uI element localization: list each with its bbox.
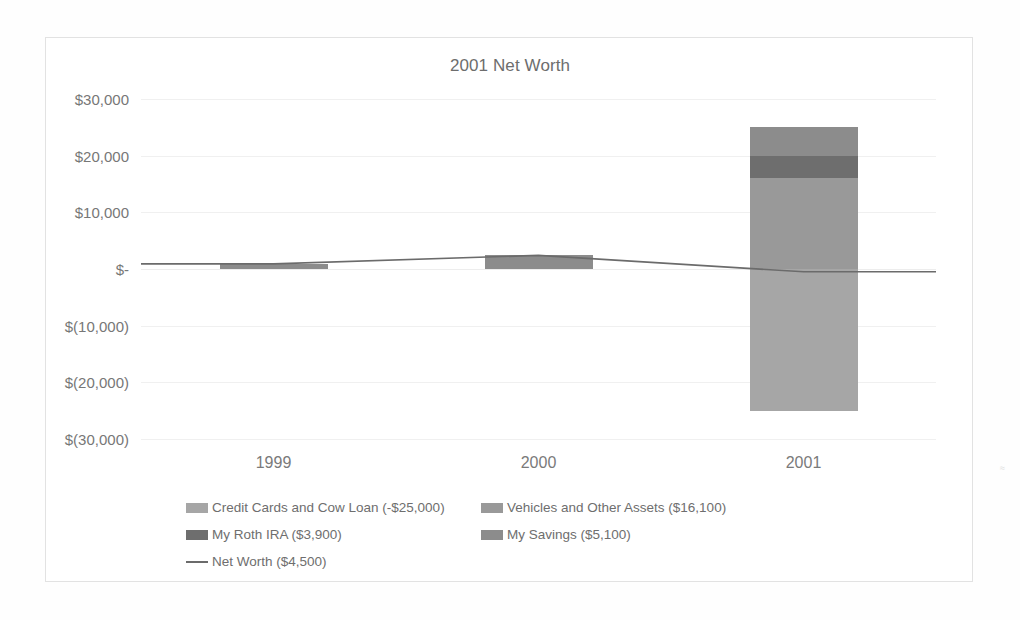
legend-item[interactable]: Credit Cards and Cow Loan (-$25,000) [186, 500, 445, 515]
legend-label: Vehicles and Other Assets ($16,100) [507, 500, 726, 515]
legend-label: Credit Cards and Cow Loan (-$25,000) [212, 500, 445, 515]
legend-label: My Savings ($5,100) [507, 527, 631, 542]
y-axis-tick-label: $(20,000) [65, 374, 129, 391]
legend-item[interactable]: Net Worth ($4,500) [186, 554, 327, 569]
y-axis-tick-label: $(30,000) [65, 431, 129, 448]
legend-swatch [186, 530, 208, 540]
plot-area: $30,000$20,000$10,000$-$(10,000)$(20,000… [141, 99, 936, 439]
x-axis-tick-label: 2000 [521, 454, 557, 472]
y-axis-tick-label: $30,000 [75, 91, 129, 108]
chart-legend: Credit Cards and Cow Loan (-$25,000)Vehi… [186, 500, 886, 578]
y-axis-tick-label: $20,000 [75, 147, 129, 164]
legend-item[interactable]: My Roth IRA ($3,900) [186, 527, 342, 542]
legend-swatch [481, 530, 503, 540]
legend-line-marker [186, 557, 208, 567]
y-axis-tick-label: $- [116, 261, 129, 278]
x-axis-tick-label: 1999 [256, 454, 292, 472]
legend-label: My Roth IRA ($3,900) [212, 527, 342, 542]
legend-swatch [481, 503, 503, 513]
x-axis-tick-label: 2001 [786, 454, 822, 472]
chart-screenshot: 2001 Net Worth $30,000$20,000$10,000$-$(… [0, 0, 1020, 620]
gridline [141, 439, 936, 440]
chart-title: 2001 Net Worth [46, 56, 974, 76]
legend-swatch [186, 503, 208, 513]
legend-item[interactable]: Vehicles and Other Assets ($16,100) [481, 500, 726, 515]
legend-item[interactable]: My Savings ($5,100) [481, 527, 631, 542]
y-axis-tick-label: $10,000 [75, 204, 129, 221]
net-worth-line [141, 99, 936, 439]
y-axis-tick-label: $(10,000) [65, 317, 129, 334]
legend-label: Net Worth ($4,500) [212, 554, 327, 569]
chart-frame: 2001 Net Worth $30,000$20,000$10,000$-$(… [45, 37, 973, 582]
edge-artifact: ≈ [1000, 463, 1014, 472]
